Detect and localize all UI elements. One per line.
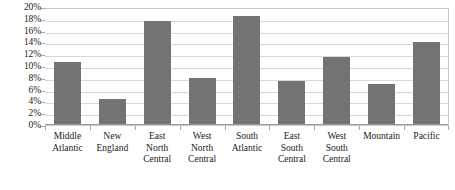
bar-series (45, 9, 448, 125)
x-axis-category-label-line: New (90, 131, 135, 143)
bar-slot (135, 9, 180, 125)
y-axis-tick-mark (41, 43, 45, 44)
bar (233, 16, 260, 125)
y-axis-tick-label: 4% (29, 98, 41, 108)
x-axis-category-label: NewEngland (90, 131, 135, 154)
y-axis-tick-mark (41, 8, 45, 9)
x-axis-category-label-line: South (314, 143, 359, 155)
y-axis-tick-mark (41, 102, 45, 103)
x-axis-category-label-line: East (135, 131, 180, 143)
x-axis-tick-mark (45, 126, 46, 130)
y-axis-tick-label: 10% (24, 62, 41, 72)
x-axis-tick-mark (180, 126, 181, 130)
bar-slot (225, 9, 270, 125)
y-axis-tick-labels: 0%2%4%6%8%10%12%14%16%18%20% (0, 8, 44, 126)
bar (413, 42, 440, 125)
x-axis-category-label-line: Central (269, 154, 314, 166)
x-axis-category-labels: MiddleAtlanticNewEnglandEastNorthCentral… (45, 131, 449, 189)
x-axis-category-label: Pacific (404, 131, 449, 143)
x-axis-category-label-line: England (90, 143, 135, 155)
x-axis-category-label-line: Atlantic (45, 143, 90, 155)
x-axis-category-label-line: East (269, 131, 314, 143)
bar (99, 99, 126, 125)
x-axis-category-label-line: South (225, 131, 270, 143)
x-axis-tick-mark (135, 126, 136, 130)
x-axis-line (45, 124, 448, 125)
bar-slot (45, 9, 90, 125)
x-axis-category-label-line: Central (314, 154, 359, 166)
x-axis-category-label: SouthAtlantic (225, 131, 270, 154)
x-axis-tick-mark (225, 126, 226, 130)
y-axis-tick-mark (41, 67, 45, 68)
bar-slot (314, 9, 359, 125)
bar-slot (269, 9, 314, 125)
x-axis-category-label-line: West (180, 131, 225, 143)
x-axis-category-label-line: South (269, 143, 314, 155)
x-axis-category-label: Mountain (359, 131, 404, 143)
y-axis-tick-mark (41, 126, 45, 127)
x-axis-tick-mark (269, 126, 270, 130)
x-axis-category-label: EastNorthCentral (135, 131, 180, 166)
bar-slot (359, 9, 404, 125)
bar (323, 57, 350, 125)
y-axis-tick-label: 20% (24, 3, 41, 13)
bar-slot (180, 9, 225, 125)
bar-chart: 0%2%4%6%8%10%12%14%16%18%20% MiddleAtlan… (0, 0, 455, 190)
y-axis-tick-label: 14% (24, 39, 41, 49)
x-axis-category-label: MiddleAtlantic (45, 131, 90, 154)
x-axis-category-label-line: North (135, 143, 180, 155)
x-axis-category-label-line: Central (180, 154, 225, 166)
x-axis-tick-mark (90, 126, 91, 130)
bar-slot (90, 9, 135, 125)
x-axis-tick-mark (448, 126, 449, 130)
bar (144, 21, 171, 125)
y-axis-tick-mark (41, 114, 45, 115)
x-axis-category-label: EastSouthCentral (269, 131, 314, 166)
y-axis-tick-mark (41, 20, 45, 21)
x-axis-tick-mark (314, 126, 315, 130)
x-axis-category-label: WestSouthCentral (314, 131, 359, 166)
x-axis-tick-mark (359, 126, 360, 130)
y-axis-tick-mark (41, 32, 45, 33)
y-axis-tick-label: 12% (24, 50, 41, 60)
x-axis-category-label-line: North (180, 143, 225, 155)
y-axis-tick-mark (41, 79, 45, 80)
bar (54, 62, 81, 125)
y-axis-tick-mark (41, 91, 45, 92)
bar-slot (404, 9, 449, 125)
y-axis-tick-label: 6% (29, 86, 41, 96)
x-axis-category-label-line: Atlantic (225, 143, 270, 155)
y-axis-tick-mark (41, 55, 45, 56)
y-axis-tick-label: 16% (24, 27, 41, 37)
plot-area (45, 8, 449, 126)
x-axis-category-label-line: West (314, 131, 359, 143)
x-axis-category-label: WestNorthCentral (180, 131, 225, 166)
x-axis-category-label-line: Pacific (404, 131, 449, 143)
y-axis-tick-label: 0% (29, 121, 41, 131)
x-axis-category-label-line: Central (135, 154, 180, 166)
bar (278, 81, 305, 125)
y-axis-tick-label: 8% (29, 74, 41, 84)
x-axis-category-label-line: Middle (45, 131, 90, 143)
y-axis-tick-label: 18% (24, 15, 41, 25)
x-axis-tick-mark (404, 126, 405, 130)
bar (368, 84, 395, 125)
y-axis-tick-label: 2% (29, 109, 41, 119)
x-axis-category-label-line: Mountain (359, 131, 404, 143)
bar (189, 78, 216, 125)
